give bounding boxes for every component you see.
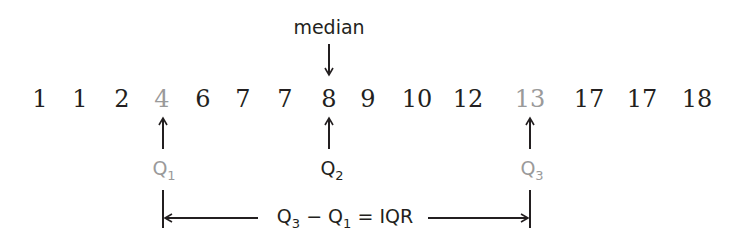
- formula-q3-subscript: 3: [292, 216, 300, 231]
- formula-minus: −: [306, 205, 322, 227]
- formula-q3: Q: [277, 205, 292, 227]
- formula-q1: Q: [328, 205, 343, 227]
- iqr-formula: Q3 − Q1 = IQR: [271, 205, 419, 231]
- formula-q1-subscript: 1: [343, 216, 351, 231]
- formula-iqr: IQR: [379, 205, 413, 227]
- formula-equals: =: [357, 205, 373, 227]
